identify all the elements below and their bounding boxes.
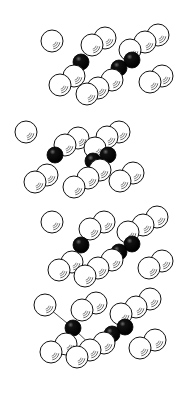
white-atom: [71, 299, 93, 321]
white-atom: [76, 83, 98, 105]
white-atom: [48, 259, 70, 281]
white-atom: [41, 211, 63, 233]
black-atom: [47, 147, 63, 163]
white-atom: [74, 265, 96, 287]
panel-1: [41, 24, 173, 105]
atom-cluster-figure: [0, 0, 189, 394]
white-atom: [41, 30, 63, 52]
white-atom: [63, 176, 85, 198]
white-atom: [40, 341, 62, 363]
black-atom: [73, 237, 89, 253]
white-atom: [139, 71, 161, 93]
white-atom: [49, 74, 71, 96]
white-atom: [34, 294, 56, 316]
panel-3: [41, 206, 173, 287]
white-atom: [15, 121, 37, 143]
white-atom: [66, 346, 88, 368]
molecular-diagram: [0, 0, 189, 394]
white-atom: [129, 337, 151, 359]
panel-4: [34, 288, 166, 368]
panel-2: [15, 121, 144, 198]
white-atom: [79, 218, 101, 240]
white-atom: [24, 171, 46, 193]
white-atom: [138, 257, 160, 279]
white-atom: [109, 170, 131, 192]
white-atom: [81, 34, 103, 56]
